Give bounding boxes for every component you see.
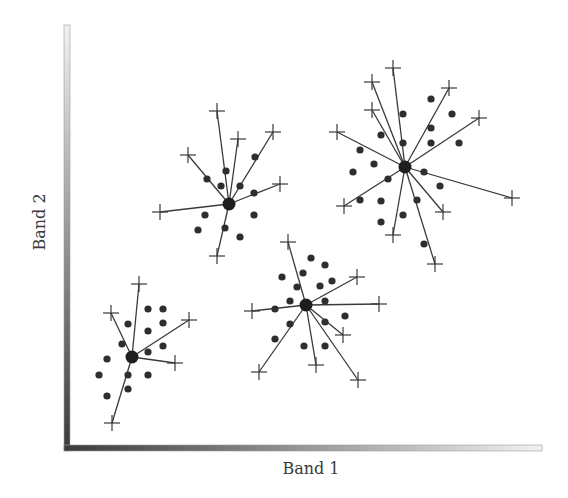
plus-marker-icon xyxy=(471,110,487,126)
spoke-line xyxy=(306,305,316,365)
cluster-4 xyxy=(244,234,387,388)
data-point xyxy=(271,305,278,312)
data-point xyxy=(203,175,210,182)
cluster-center xyxy=(300,299,313,312)
data-point xyxy=(299,269,306,276)
clusters-layer xyxy=(95,60,520,431)
spoke-line xyxy=(160,204,229,212)
plus-marker-icon xyxy=(230,131,246,147)
data-point xyxy=(321,297,328,304)
spoke-line xyxy=(252,305,306,311)
x-axis xyxy=(64,445,542,451)
data-point xyxy=(103,355,110,362)
data-point xyxy=(236,182,243,189)
spoke-line xyxy=(405,167,435,264)
data-point xyxy=(278,273,285,280)
y-axis-label: Band 2 xyxy=(30,193,49,250)
cluster-3 xyxy=(329,60,520,272)
data-point xyxy=(370,160,377,167)
data-point xyxy=(124,371,131,378)
plus-marker-icon xyxy=(103,305,119,321)
spoke-line xyxy=(111,313,132,357)
plus-marker-icon xyxy=(441,80,457,96)
data-point xyxy=(194,226,201,233)
spoke-line xyxy=(405,88,449,167)
data-point xyxy=(300,342,307,349)
plus-marker-icon xyxy=(350,372,366,388)
data-point xyxy=(293,283,300,290)
data-point xyxy=(413,196,420,203)
data-point xyxy=(144,327,151,334)
data-point xyxy=(144,371,151,378)
data-point xyxy=(436,182,443,189)
spoke-line xyxy=(229,139,238,204)
data-point xyxy=(356,146,363,153)
cluster-diagram: Band 1 Band 2 xyxy=(0,0,568,498)
plus-marker-icon xyxy=(371,296,387,312)
plus-marker-icon xyxy=(427,256,443,272)
data-point xyxy=(221,224,228,231)
data-point xyxy=(217,182,224,189)
data-point xyxy=(448,110,455,117)
plus-marker-icon xyxy=(385,60,401,76)
plus-marker-icon xyxy=(336,198,352,214)
plus-marker-icon xyxy=(180,147,196,163)
plus-marker-icon xyxy=(349,269,365,285)
data-point xyxy=(250,189,257,196)
plus-marker-icon xyxy=(329,124,345,140)
data-point xyxy=(384,175,391,182)
data-point xyxy=(144,348,151,355)
cluster-center xyxy=(126,351,139,364)
data-point xyxy=(201,211,208,218)
plus-marker-icon xyxy=(244,303,260,319)
cluster-2 xyxy=(152,103,288,264)
data-point xyxy=(377,197,384,204)
data-point xyxy=(341,312,348,319)
data-point xyxy=(399,110,406,117)
y-axis xyxy=(64,25,70,451)
data-point xyxy=(144,305,151,312)
plus-marker-icon xyxy=(209,103,225,119)
x-axis-bar xyxy=(64,445,542,451)
plus-marker-icon xyxy=(308,357,324,373)
spoke-line xyxy=(306,304,379,305)
data-point xyxy=(321,342,328,349)
data-point xyxy=(159,305,166,312)
plus-marker-icon xyxy=(265,124,281,140)
data-point xyxy=(321,261,328,268)
spoke-line xyxy=(306,305,358,380)
plus-marker-icon xyxy=(167,355,183,371)
cluster-1 xyxy=(95,276,197,431)
data-point xyxy=(399,211,406,218)
data-point xyxy=(420,168,427,175)
data-point xyxy=(356,196,363,203)
data-point xyxy=(236,233,243,240)
data-point xyxy=(427,139,434,146)
x-axis-label: Band 1 xyxy=(282,459,339,478)
data-point xyxy=(377,131,384,138)
data-point xyxy=(455,139,462,146)
plus-marker-icon xyxy=(152,204,168,220)
y-axis-bar xyxy=(64,25,70,451)
data-point xyxy=(316,282,323,289)
spoke-line xyxy=(405,118,479,167)
cluster-center xyxy=(223,198,236,211)
spoke-line xyxy=(393,167,405,235)
data-point xyxy=(118,340,125,347)
plus-marker-icon xyxy=(385,227,401,243)
spoke-line xyxy=(132,357,175,363)
data-point xyxy=(286,320,293,327)
data-point xyxy=(159,342,166,349)
plus-marker-icon xyxy=(209,248,225,264)
data-point xyxy=(222,167,229,174)
plus-marker-icon xyxy=(435,204,451,220)
plus-marker-icon xyxy=(280,234,296,250)
data-point xyxy=(103,392,110,399)
data-point xyxy=(286,297,293,304)
data-point xyxy=(95,371,102,378)
plus-marker-icon xyxy=(272,176,288,192)
plus-marker-icon xyxy=(131,276,147,292)
spoke-line xyxy=(217,111,229,204)
data-point xyxy=(159,319,166,326)
data-point xyxy=(321,318,328,325)
